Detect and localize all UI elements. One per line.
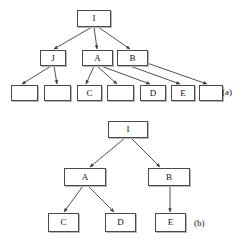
node-label: I xyxy=(126,125,129,134)
node-a-leaf-blank-1[interactable] xyxy=(11,85,38,101)
edge-i-a xyxy=(94,27,97,49)
node-label: C xyxy=(86,89,92,98)
node-b-leaf-d[interactable]: D xyxy=(105,213,136,232)
node-a-leaf-e[interactable]: E xyxy=(171,85,195,101)
node-a-root-i[interactable]: I xyxy=(77,10,111,27)
node-label: A xyxy=(94,54,101,63)
node-label: B xyxy=(166,173,172,182)
node-a-node-b[interactable]: B xyxy=(117,50,148,66)
node-b-leaf-c[interactable]: C xyxy=(48,213,79,232)
node-a-leaf-blank-2[interactable] xyxy=(44,85,71,101)
edge-i-a xyxy=(90,138,125,167)
edge-j-l2 xyxy=(54,66,57,84)
node-label: D xyxy=(117,218,124,227)
figure-root: IJABCDE IABCDE (a) (b) xyxy=(0,0,249,249)
node-a-leaf-c[interactable]: C xyxy=(77,85,102,101)
node-label: J xyxy=(51,54,55,63)
edge-a-d xyxy=(88,186,114,212)
node-a-node-j[interactable]: J xyxy=(40,50,66,66)
node-b-leaf-e[interactable]: E xyxy=(155,213,186,232)
panel-label-b: (b) xyxy=(194,219,205,228)
node-a-leaf-blank-4[interactable] xyxy=(199,85,223,101)
edge-b-e xyxy=(130,66,180,84)
page-bottom-text-fragment xyxy=(0,243,249,249)
node-b-node-a[interactable]: A xyxy=(64,168,106,186)
node-label: C xyxy=(60,218,66,227)
edge-a-l3 xyxy=(97,66,117,84)
edge-i-b xyxy=(98,27,130,49)
node-label: A xyxy=(82,173,89,182)
edge-a-c xyxy=(64,186,83,212)
node-label: B xyxy=(129,54,135,63)
node-label: E xyxy=(180,89,186,98)
node-a-leaf-d[interactable]: D xyxy=(140,85,166,101)
node-a-leaf-blank-3[interactable] xyxy=(107,85,134,101)
edge-i-j xyxy=(54,27,92,49)
edge-a-d xyxy=(101,66,150,84)
node-a-node-a[interactable]: A xyxy=(82,50,113,66)
node-label: E xyxy=(168,218,174,227)
panel-label-a: (a) xyxy=(222,88,232,97)
edge-i-b xyxy=(131,138,160,167)
node-label: I xyxy=(92,14,95,23)
node-b-root-i[interactable]: I xyxy=(108,121,148,138)
node-label: D xyxy=(150,89,157,98)
node-b-node-b[interactable]: B xyxy=(148,168,190,186)
edge-b-l4 xyxy=(147,63,207,84)
edge-j-l1 xyxy=(22,66,51,84)
edge-a-c xyxy=(86,66,94,84)
